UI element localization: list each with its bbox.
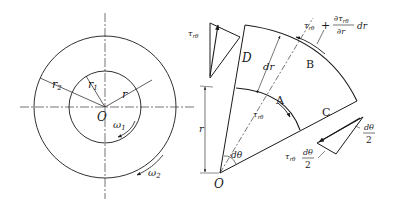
point-c-label: C (322, 106, 330, 119)
r2-label: r2 (52, 78, 62, 92)
point-d-label: D (241, 51, 252, 65)
center-o-label: O (97, 110, 107, 124)
r-dim-ext-top (200, 86, 213, 87)
svg-text:∂r: ∂r (337, 27, 346, 36)
outer-arc (245, 25, 357, 101)
svg-text:+: + (321, 19, 330, 32)
tau-b-arrow-icon (296, 37, 325, 54)
r2-radius-line (40, 78, 105, 107)
dr-label: dr (263, 61, 275, 72)
omega1-label: ω1 (113, 119, 126, 132)
svg-text:τrθ: τrθ (304, 21, 315, 31)
dtheta-label: dθ (231, 150, 243, 160)
r-dim-label: r (199, 123, 205, 134)
tau-b-leader (317, 30, 324, 44)
concentric-cylinders-figure (20, 13, 196, 199)
dtheta-half-right-label: dθ 2 (363, 123, 375, 145)
tau-top-label: τrθ (188, 29, 199, 39)
force-triangle-bottom (317, 117, 363, 154)
tau-dtheta-half-label: τrθ dθ 2 (285, 148, 314, 170)
point-b-label: B (306, 58, 314, 71)
r1-label: r1 (88, 78, 98, 92)
r-label: r (122, 88, 128, 101)
left-figure-labels: r2 r1 r O ω1 ω2 (52, 78, 161, 180)
svg-text:dr: dr (357, 21, 368, 31)
svg-text:2: 2 (366, 135, 372, 145)
diagram-canvas: r2 r1 r O ω1 ω2 (0, 0, 396, 206)
tau-plus-partial-label: τrθ + ∂τrθ ∂r dr (304, 14, 368, 36)
omega2-label: ω2 (148, 167, 161, 180)
svg-text:2: 2 (305, 160, 311, 170)
tau-a-label: τrθ (253, 110, 264, 120)
svg-text:∂τrθ: ∂τrθ (334, 14, 349, 24)
svg-text:τrθ: τrθ (285, 152, 296, 162)
svg-text:dθ: dθ (364, 123, 374, 132)
point-a-label: A (275, 94, 285, 107)
svg-text:dθ: dθ (303, 148, 313, 157)
r-radius-line (105, 80, 152, 107)
origin-o-label: O (214, 177, 224, 191)
edge-c-line (220, 101, 357, 173)
inner-arc (236, 88, 300, 130)
dtheta-half-leader-left (318, 151, 325, 158)
